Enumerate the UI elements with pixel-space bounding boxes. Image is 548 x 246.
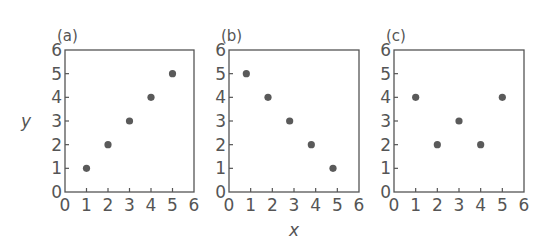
y-tick-label: 2: [215, 135, 226, 155]
data-point: [126, 117, 133, 124]
x-tick-label: 6: [354, 195, 365, 215]
data-point: [455, 117, 462, 124]
panel-a: (a)01234560123456y: [20, 27, 199, 215]
data-point: [169, 70, 176, 77]
x-tick-label: 1: [245, 195, 256, 215]
y-tick-label: 1: [215, 158, 226, 178]
y-tick-label: 4: [215, 87, 226, 107]
scatter-figure: (a)01234560123456y(b)01234560123456x(c)0…: [0, 0, 548, 246]
x-tick-label: 3: [124, 195, 135, 215]
y-tick-label: 3: [215, 111, 226, 131]
data-point: [264, 94, 271, 101]
y-tick-label: 3: [380, 111, 391, 131]
x-tick-label: 4: [146, 195, 157, 215]
data-point: [147, 94, 154, 101]
x-tick-label: 1: [410, 195, 421, 215]
x-tick-label: 6: [189, 195, 200, 215]
y-tick-label: 5: [380, 64, 391, 84]
y-tick-label: 6: [215, 40, 226, 60]
x-tick-label: 5: [497, 195, 508, 215]
x-tick-label: 4: [475, 195, 486, 215]
y-tick-label: 4: [51, 87, 62, 107]
panel-b: (b)01234560123456x: [215, 27, 364, 240]
data-point: [477, 141, 484, 148]
y-tick-label: 6: [51, 40, 62, 60]
panel-c: (c)01234560123456: [380, 27, 529, 215]
y-tick-label: 5: [215, 64, 226, 84]
y-tick-label: 2: [380, 135, 391, 155]
y-tick-label: 1: [380, 158, 391, 178]
data-point: [434, 141, 441, 148]
y-tick-label: 5: [51, 64, 62, 84]
x-tick-label: 6: [519, 195, 530, 215]
x-tick-label: 2: [432, 195, 443, 215]
y-axis-label: y: [20, 111, 32, 131]
y-tick-label: 1: [51, 158, 62, 178]
data-point: [243, 70, 250, 77]
x-tick-label: 1: [81, 195, 92, 215]
data-point: [308, 141, 315, 148]
y-tick-label: 6: [380, 40, 391, 60]
x-tick-label: 3: [454, 195, 465, 215]
y-tick-label: 3: [51, 111, 62, 131]
x-tick-label: 2: [103, 195, 114, 215]
data-point: [83, 165, 90, 172]
y-tick-label: 0: [380, 182, 391, 202]
x-axis-label: x: [288, 220, 300, 240]
x-tick-label: 3: [289, 195, 300, 215]
data-point: [412, 94, 419, 101]
x-tick-label: 4: [310, 195, 321, 215]
data-point: [329, 165, 336, 172]
y-tick-label: 4: [380, 87, 391, 107]
y-tick-label: 0: [215, 182, 226, 202]
x-tick-label: 5: [332, 195, 343, 215]
x-tick-label: 2: [267, 195, 278, 215]
y-tick-label: 0: [51, 182, 62, 202]
data-point: [286, 117, 293, 124]
data-point: [499, 94, 506, 101]
x-tick-label: 5: [167, 195, 178, 215]
data-point: [104, 141, 111, 148]
y-tick-label: 2: [51, 135, 62, 155]
